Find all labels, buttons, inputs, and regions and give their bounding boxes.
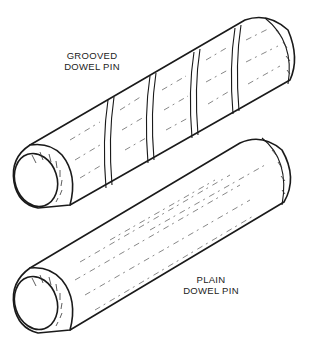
label-line-2: DOWEL PIN: [62, 61, 122, 72]
illustration-drawing: [0, 0, 315, 343]
grooved-dowel-pin-label: GROOVED DOWEL PIN: [62, 50, 122, 72]
label-line-1: GROOVED: [62, 50, 122, 61]
plain-dowel-pin-label: PLAIN DOWEL PIN: [180, 274, 242, 296]
label-line-2: DOWEL PIN: [180, 285, 242, 296]
dowel-pin-illustration: GROOVED DOWEL PIN PLAIN DOWEL PIN: [0, 0, 315, 343]
label-line-1: PLAIN: [180, 274, 242, 285]
